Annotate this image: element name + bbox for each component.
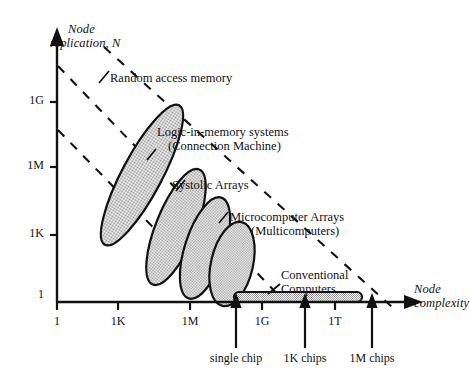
x-tick-label-1M: 1M	[175, 315, 205, 328]
region-label-logic-in-memory-line1: Logic-in-memory systems	[157, 125, 289, 139]
y-tick-label-1: 1	[8, 288, 44, 301]
leader-random-access-memory	[99, 71, 109, 83]
y-tick-label-1M: 1M	[8, 159, 44, 172]
y-axis-title: Node replication, N	[68, 22, 120, 50]
y-axis-title-line2: replication, N	[50, 36, 120, 50]
region-label-microcomputer-arrays-line2: (Multicomputers)	[251, 224, 344, 238]
x-axis-title: Node complexity	[414, 282, 469, 310]
x-axis-title-line1: Node	[414, 282, 469, 296]
region-label-microcomputer-arrays-line1: Microcomputer Arrays	[230, 210, 344, 224]
y-tick-label-1K: 1K	[8, 227, 44, 240]
x-tick-label-1T: 1T	[320, 315, 350, 328]
x-tick-label-1G: 1G	[247, 315, 277, 328]
figure-canvas: Node replication, N Node complexity 1G 1…	[0, 0, 470, 382]
region-label-random-access-memory: Random access memory	[110, 71, 232, 85]
annotation-1m-chips: 1M chips	[332, 352, 412, 365]
x-tick-label-1K: 1K	[103, 315, 133, 328]
x-axis-title-line2: complexity	[414, 296, 469, 310]
y-axis-title-line1: Node	[68, 22, 120, 36]
region-label-microcomputer-arrays: Microcomputer Arrays (Multicomputers)	[230, 210, 344, 238]
region-label-logic-in-memory: Logic-in-memory systems (Connection Mach…	[157, 125, 289, 153]
region-label-logic-in-memory-line2: (Connection Machine)	[168, 139, 289, 153]
annotation-single-chip: single chip	[196, 352, 276, 365]
y-tick-label-1G: 1G	[8, 94, 44, 107]
region-label-conventional-computers-line1: Conventional	[281, 268, 348, 282]
region-label-conventional-computers-line2: Computers	[281, 282, 348, 296]
region-label-conventional-computers: Conventional Computers	[281, 268, 348, 296]
x-tick-label-1: 1	[42, 315, 72, 328]
region-label-systolic-arrays: Systolic Arrays	[172, 178, 249, 192]
